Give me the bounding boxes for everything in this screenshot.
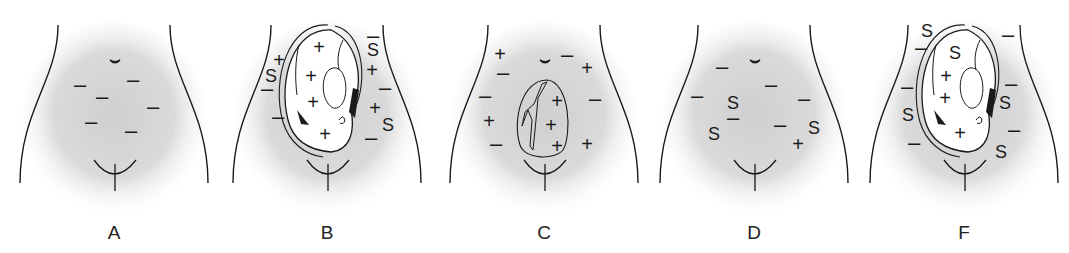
- dullness-mark: –: [691, 85, 703, 107]
- dullness-mark: –: [379, 77, 391, 99]
- dullness-mark: –: [74, 74, 86, 96]
- dullness-mark: –: [908, 132, 920, 154]
- diagram-panel-d: –––S–––SS+ D: [640, 0, 854, 253]
- tympany-mark: +: [551, 91, 563, 111]
- shift-mark: S: [382, 116, 394, 134]
- shift-mark: S: [808, 119, 820, 137]
- panel-label: B: [321, 222, 334, 244]
- tympany-mark: +: [581, 134, 593, 154]
- dullness-mark: –: [765, 74, 777, 96]
- tympany-mark: +: [366, 60, 378, 80]
- shift-mark: S: [367, 41, 379, 59]
- shift-mark: S: [999, 94, 1011, 112]
- panel-label: C: [537, 222, 551, 244]
- tympany-mark: +: [313, 37, 325, 57]
- tympany-mark: +: [319, 124, 331, 144]
- abdomen-outline-icon: [430, 0, 644, 253]
- dullness-mark: –: [125, 120, 137, 142]
- panel-label: D: [747, 222, 761, 244]
- tympany-mark: +: [581, 58, 593, 78]
- dullness-mark: –: [365, 127, 377, 149]
- dullness-mark: –: [727, 107, 739, 129]
- panel-label: A: [108, 222, 121, 244]
- panel-label: F: [958, 222, 970, 244]
- tympany-mark: +: [483, 111, 495, 131]
- dullness-mark: –: [901, 76, 913, 98]
- shift-mark: S: [995, 143, 1007, 161]
- dullness-mark: –: [561, 44, 573, 66]
- abdomen-outline-icon: [640, 0, 854, 253]
- tympany-mark: +: [939, 88, 951, 108]
- tympany-mark: +: [792, 134, 804, 154]
- dullness-mark: –: [774, 114, 786, 136]
- shift-mark: S: [949, 44, 961, 62]
- shift-mark: S: [902, 106, 914, 124]
- tympany-mark: +: [369, 98, 381, 118]
- shift-mark: S: [708, 125, 720, 143]
- dullness-mark: –: [716, 56, 728, 78]
- dullness-mark: –: [1002, 24, 1014, 46]
- dullness-mark: –: [147, 96, 159, 118]
- dullness-mark: –: [127, 69, 139, 91]
- tympany-mark: +: [307, 92, 319, 112]
- dullness-mark: –: [589, 88, 601, 110]
- tympany-mark: +: [940, 66, 952, 86]
- diagram-panel-c: +––+––+–++++ C: [430, 0, 644, 253]
- dullness-mark: –: [497, 62, 509, 84]
- dullness-mark: –: [261, 78, 273, 100]
- diagram-panel-a: –––––– A: [0, 0, 214, 253]
- tympany-mark: +: [551, 136, 563, 156]
- dullness-mark: –: [479, 85, 491, 107]
- tympany-mark: +: [954, 123, 966, 143]
- dullness-mark: –: [490, 133, 502, 155]
- diagram-panel-b: +S––++++–S+–+S– B: [213, 0, 427, 253]
- dullness-mark: –: [915, 37, 927, 59]
- dullness-mark: –: [1008, 119, 1020, 141]
- dullness-mark: –: [96, 86, 108, 108]
- abdomen-outline-icon: [0, 0, 214, 253]
- diagram-panel-f: S–S+++–S–––S–S F: [850, 0, 1064, 253]
- dullness-mark: –: [85, 111, 97, 133]
- tympany-mark: +: [545, 115, 557, 135]
- dullness-mark: –: [798, 88, 810, 110]
- tympany-mark: +: [305, 66, 317, 86]
- dullness-mark: –: [272, 106, 284, 128]
- dullness-mark: –: [1005, 73, 1017, 95]
